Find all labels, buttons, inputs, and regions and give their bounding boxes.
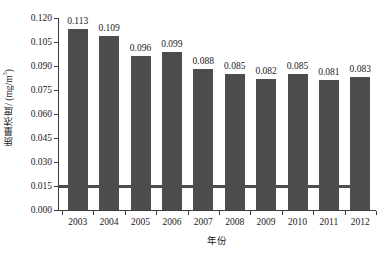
y-axis-title-exponent: 3	[1, 72, 8, 75]
bar-value-label: 0.109	[98, 23, 119, 33]
reference-line	[59, 185, 360, 188]
y-axis-tick-label: 0.075	[31, 85, 52, 95]
y-axis-tick-label: 0.090	[31, 61, 52, 71]
x-axis-tick-mark	[219, 211, 220, 215]
bar-value-label: 0.085	[287, 61, 308, 71]
x-axis-tick-label: 2010	[288, 217, 307, 227]
bar	[68, 29, 88, 210]
x-axis-tick-mark	[282, 211, 283, 215]
y-axis-title-main: 质量浓度/ (mg/m	[4, 75, 14, 145]
x-axis-tick-label: 2007	[194, 217, 213, 227]
x-axis-tick-mark	[156, 211, 157, 215]
plot-area: 0.1130.1090.0960.0990.0880.0850.0820.085…	[58, 18, 376, 211]
y-axis-tick-label: 0.000	[31, 205, 52, 215]
bar	[193, 69, 213, 210]
x-axis-tick-mark	[188, 211, 189, 215]
x-axis-tick-mark	[376, 211, 377, 215]
x-axis-tick-label: 2005	[131, 217, 150, 227]
x-axis-tick-label: 2003	[68, 217, 87, 227]
bar-chart-figure: 质量浓度/ (mg/m3) 0.0000.0150.0300.0450.0600…	[0, 0, 391, 262]
x-axis-tick-label: 2008	[225, 217, 244, 227]
y-axis-tick-label: 0.120	[31, 13, 52, 23]
y-axis-title-tail: )	[4, 69, 14, 72]
bar-value-label: 0.113	[67, 16, 88, 26]
x-axis-line	[58, 210, 376, 211]
x-axis-tick-label: 2009	[257, 217, 276, 227]
x-axis-tick-mark	[250, 211, 251, 215]
x-axis-tick-mark	[93, 211, 94, 215]
y-axis-tick-label: 0.015	[31, 181, 52, 191]
bar-value-label: 0.081	[318, 67, 339, 77]
bar	[319, 80, 339, 210]
bar	[99, 36, 119, 210]
y-axis-tick-label: 0.060	[31, 109, 52, 119]
y-axis-tick-label: 0.045	[31, 133, 52, 143]
x-axis-tick-label: 2011	[320, 217, 339, 227]
bar	[350, 77, 370, 210]
x-axis-tick-mark	[125, 211, 126, 215]
bar-value-label: 0.099	[161, 39, 182, 49]
y-axis-tick-label: 0.105	[31, 37, 52, 47]
x-axis-tick-mark	[345, 211, 346, 215]
bar-value-label: 0.088	[193, 56, 214, 66]
bar-value-label: 0.085	[224, 61, 245, 71]
x-axis-tick-label: 2012	[351, 217, 370, 227]
y-axis-line	[58, 18, 59, 211]
x-axis-tick-label: 2004	[100, 217, 119, 227]
x-axis-title: 年份	[58, 233, 376, 247]
y-axis-tick-labels: 0.0000.0150.0300.0450.0600.0750.0900.105…	[14, 0, 58, 262]
x-axis-tick-label: 2006	[162, 217, 181, 227]
bar-value-label: 0.096	[130, 43, 151, 53]
bar-value-label: 0.083	[350, 64, 371, 74]
bar	[225, 74, 245, 210]
x-axis-tick-mark	[313, 211, 314, 215]
x-axis-tick-mark	[62, 211, 63, 215]
bar-value-label: 0.082	[255, 66, 276, 76]
y-axis-title-text: 质量浓度/ (mg/m3)	[2, 69, 15, 146]
y-axis-tick-label: 0.030	[31, 157, 52, 167]
bar	[288, 74, 308, 210]
bar	[256, 79, 276, 210]
